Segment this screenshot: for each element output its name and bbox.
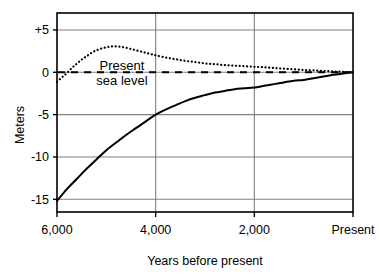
y-tick-label-4: -15 [31, 193, 49, 207]
x-tick-label-2: 2,000 [239, 223, 270, 237]
y-tick-label-1: 0 [42, 66, 49, 80]
x-tick-label-1: 4,000 [140, 223, 171, 237]
y-tick-label-2: -5 [38, 108, 49, 122]
x-tick-label-0: 6,000 [41, 223, 72, 237]
y-tick-label-0: +5 [35, 23, 49, 37]
annotation-line-1: Present [100, 58, 145, 73]
present-sea-level-annotation: Present sea level [96, 58, 147, 88]
chart-canvas: +50-5-10-15 6,0004,0002,000Present Meter… [0, 0, 381, 273]
x-axis-title: Years before present [147, 254, 263, 268]
annotation-line-2: sea level [96, 73, 147, 88]
sea-level-chart-figure: +50-5-10-15 6,0004,0002,000Present Meter… [0, 0, 381, 273]
x-tick-label-3: Present [331, 223, 375, 237]
y-axis-title: Meters [13, 106, 27, 144]
y-tick-label-3: -10 [31, 150, 49, 164]
